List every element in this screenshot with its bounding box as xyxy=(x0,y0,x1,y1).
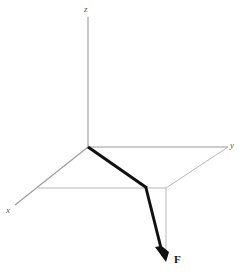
force-vector-label: F xyxy=(174,254,181,265)
force-vector-group xyxy=(88,147,169,262)
x-axis-line xyxy=(15,147,88,205)
force-vector-upper-segment xyxy=(88,147,147,188)
diagram-canvas xyxy=(0,0,244,278)
x-axis-label: x xyxy=(6,206,10,215)
force-vector-diagram: z y x F xyxy=(0,0,244,278)
y-axis-label: y xyxy=(230,141,234,150)
z-axis-label: z xyxy=(84,5,88,14)
force-vector-lower-segment xyxy=(146,188,163,256)
projection-base-diagonal-line xyxy=(166,147,228,188)
axes-group xyxy=(15,17,228,205)
